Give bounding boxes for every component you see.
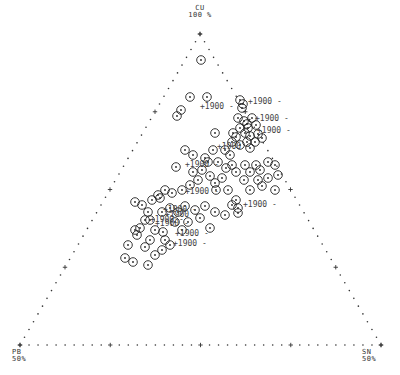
point-year-label: +1900 - <box>155 219 189 228</box>
bottom-edge-dot <box>118 344 120 346</box>
bottom-edge-dot <box>353 344 355 346</box>
left-edge-dot <box>195 41 197 43</box>
data-point-marker <box>221 211 230 220</box>
left-edge-dot <box>69 259 71 261</box>
right-edge-dot <box>276 165 278 167</box>
right-edge-dot <box>213 57 215 59</box>
data-point-marker <box>148 196 157 205</box>
data-point-marker <box>224 186 233 195</box>
right-edge-dot <box>254 127 256 129</box>
right-edge-dot <box>222 72 224 74</box>
bottom-edge-dot <box>326 344 328 346</box>
right-edge-dot <box>217 64 219 66</box>
data-point-marker <box>141 216 150 225</box>
right-edge-dot <box>317 235 319 237</box>
data-point-marker <box>158 246 167 255</box>
vertex-left-value: 50% <box>12 356 36 363</box>
left-edge-dot <box>105 196 107 198</box>
bottom-edge-dot <box>37 344 39 346</box>
bottom-edge-dot <box>28 344 30 346</box>
data-point-marker <box>246 186 255 195</box>
bottom-edge-dot <box>209 344 211 346</box>
left-edge-dot <box>177 72 179 74</box>
right-edge-dot <box>353 298 355 300</box>
vertex-label-left: PB 50% <box>12 349 36 363</box>
right-edge-dot <box>312 228 314 230</box>
left-edge-dot <box>78 243 80 245</box>
point-year-label: +1900 - <box>243 200 277 209</box>
left-edge-dot <box>37 313 39 315</box>
right-edge-dot <box>208 49 210 51</box>
left-edge-dot <box>46 298 48 300</box>
right-edge-dot <box>371 329 373 331</box>
bottom-edge-dot <box>308 344 310 346</box>
bottom-edge-dot <box>236 344 238 346</box>
right-edge-dot <box>294 196 296 198</box>
bottom-edge-dot <box>155 344 157 346</box>
bottom-edge-dot <box>272 344 274 346</box>
data-point-marker <box>172 163 181 172</box>
left-edge-dot <box>100 204 102 206</box>
bottom-edge-dot <box>173 344 175 346</box>
left-edge-dot <box>42 305 44 307</box>
left-edge-dot <box>118 173 120 175</box>
data-point-marker <box>181 146 190 155</box>
data-point-marker <box>144 261 153 270</box>
right-edge-dot <box>299 204 301 206</box>
bottom-edge-dot <box>263 344 265 346</box>
data-point-marker <box>121 254 130 263</box>
bottom-edge-dot <box>73 344 75 346</box>
data-point-marker <box>271 161 280 170</box>
bottom-edge-dot <box>371 344 373 346</box>
right-edge-dot <box>344 282 346 284</box>
left-edge-dot <box>51 290 53 292</box>
right-edge-dot <box>376 336 378 338</box>
point-year-label: +1900 - <box>185 187 219 196</box>
right-edge-dot <box>272 158 274 160</box>
right-edge-dot <box>321 243 323 245</box>
left-edge-dot <box>163 95 165 97</box>
data-point-marker <box>186 93 195 102</box>
point-year-label: +1900 - <box>173 239 207 248</box>
left-edge-dot <box>127 158 129 160</box>
data-point-marker <box>234 209 243 218</box>
vertex-right-value: 50% <box>362 356 386 363</box>
data-point-marker <box>226 151 235 160</box>
bottom-edge-dot <box>191 344 193 346</box>
left-edge-dot <box>145 127 147 129</box>
bottom-edge-dot <box>146 344 148 346</box>
bottom-edge-dot <box>254 344 256 346</box>
data-point-marker <box>133 231 142 240</box>
left-edge-dot <box>114 181 116 183</box>
left-edge-dot <box>73 251 75 253</box>
right-edge-dot <box>330 259 332 261</box>
bottom-edge-dot <box>100 344 102 346</box>
left-edge-dot <box>172 80 174 82</box>
right-edge-dot <box>303 212 305 214</box>
ternary-plot: +1900 -+1900 -+1900 -+1900 -+1900 -+1900… <box>0 0 400 375</box>
data-point-marker <box>173 112 182 121</box>
bottom-edge-dot <box>64 344 66 346</box>
data-point-marker <box>209 146 218 155</box>
bottom-edge-dot <box>335 344 337 346</box>
data-point-marker <box>141 243 150 252</box>
bottom-edge-dot <box>137 344 139 346</box>
data-point-marker <box>189 151 198 160</box>
bottom-edge-dot <box>91 344 93 346</box>
point-year-label: +1900 - <box>255 114 289 123</box>
left-edge-dot <box>28 329 30 331</box>
data-point-marker <box>240 176 249 185</box>
left-edge-dot <box>181 64 183 66</box>
bottom-edge-dot <box>218 344 220 346</box>
right-edge-dot <box>349 290 351 292</box>
data-point-marker <box>177 106 186 115</box>
right-edge-dot <box>204 41 206 43</box>
bottom-edge-dot <box>299 344 301 346</box>
data-point-marker <box>201 202 210 211</box>
bottom-edge-dot <box>182 344 184 346</box>
right-edge-dot <box>362 313 364 315</box>
left-edge-dot <box>55 282 57 284</box>
point-year-label: +1900 - <box>248 97 282 106</box>
vertex-top-value: 100 % <box>185 12 215 19</box>
left-edge-dot <box>33 321 35 323</box>
